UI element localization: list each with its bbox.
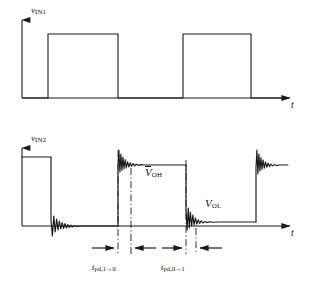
tpd-low-to-high-label: tpd,0→1 [161, 263, 185, 273]
vol-symbol: V [205, 197, 212, 209]
tpd-hl-subscript: pd,1 [95, 265, 106, 272]
top-plot-axes [22, 20, 290, 98]
top-waveform-vin1 [22, 34, 288, 98]
timing-diagram-figure: vIN1 t vIN2 t VOH VOL tpd,1→0 tpd,0→1 [0, 0, 312, 286]
tpd-lh-arrow: →1 [175, 265, 185, 272]
vol-subscript: OL [212, 202, 222, 210]
top-y-axis-label: vIN1 [31, 6, 46, 16]
bottom-plot-axes [22, 148, 290, 226]
vol-label: VOL [205, 198, 221, 210]
bottom-y-axis-label: vIN2 [31, 134, 46, 144]
top-x-axis-label: t [291, 100, 294, 110]
voh-label: VOH [145, 167, 162, 179]
tpd-hl-arrow: →0 [106, 265, 116, 272]
bottom-waveform-vin2 [22, 150, 288, 236]
waveform-canvas [0, 0, 312, 286]
tpd-lh-subscript: pd,0 [164, 265, 175, 272]
voh-symbol: V [145, 166, 152, 178]
bottom-x-axis-label: t [291, 228, 294, 238]
tpd-high-to-low-label: tpd,1→0 [92, 263, 116, 273]
top-y-axis-subscript: IN1 [35, 8, 46, 16]
voh-subscript: OH [152, 171, 162, 179]
bottom-y-axis-subscript: IN2 [35, 136, 46, 144]
